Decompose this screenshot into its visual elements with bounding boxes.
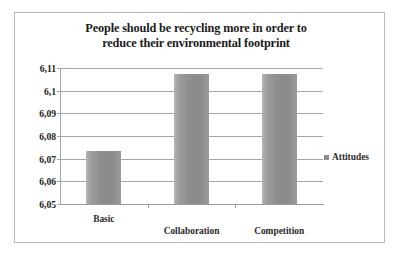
x-axis-line bbox=[60, 204, 324, 205]
y-axis-tick bbox=[57, 136, 60, 137]
chart-legend: Attitudes bbox=[324, 152, 369, 162]
y-axis-label: 6,08 bbox=[39, 131, 56, 142]
y-axis-label: 6,05 bbox=[39, 199, 56, 210]
y-axis-tick bbox=[57, 113, 60, 114]
x-axis-tick bbox=[235, 205, 236, 208]
y-axis-tick bbox=[57, 181, 60, 182]
y-axis-labels: 6,116,16,096,086,076,066,05 bbox=[15, 68, 56, 204]
y-axis-label: 6,06 bbox=[39, 176, 56, 187]
x-axis-label-competition: Competition bbox=[219, 226, 339, 236]
legend-label-attitudes: Attitudes bbox=[332, 152, 369, 162]
legend-swatch-attitudes bbox=[324, 155, 329, 160]
chart-title: People should be recycling more in order… bbox=[41, 21, 351, 51]
chart-title-line-2: reduce their environmental footprint bbox=[41, 36, 351, 51]
bar-competition bbox=[262, 74, 297, 204]
gridline bbox=[60, 68, 323, 69]
chart-title-line-1: People should be recycling more in order… bbox=[41, 21, 351, 36]
y-axis-label: 6,11 bbox=[40, 63, 56, 74]
y-axis-tick bbox=[57, 91, 60, 92]
x-axis-tick bbox=[148, 205, 149, 208]
bar-basic bbox=[86, 151, 121, 204]
y-axis-label: 6,1 bbox=[44, 85, 56, 96]
plot-area bbox=[60, 68, 323, 204]
y-axis-label: 6,09 bbox=[39, 108, 56, 119]
y-axis-label: 6,07 bbox=[39, 153, 56, 164]
y-axis-tick bbox=[57, 68, 60, 69]
bar-collaboration bbox=[174, 74, 209, 204]
y-axis-tick bbox=[57, 159, 60, 160]
chart-figure: People should be recycling more in order… bbox=[14, 12, 385, 243]
x-axis-label-basic: Basic bbox=[44, 214, 164, 224]
